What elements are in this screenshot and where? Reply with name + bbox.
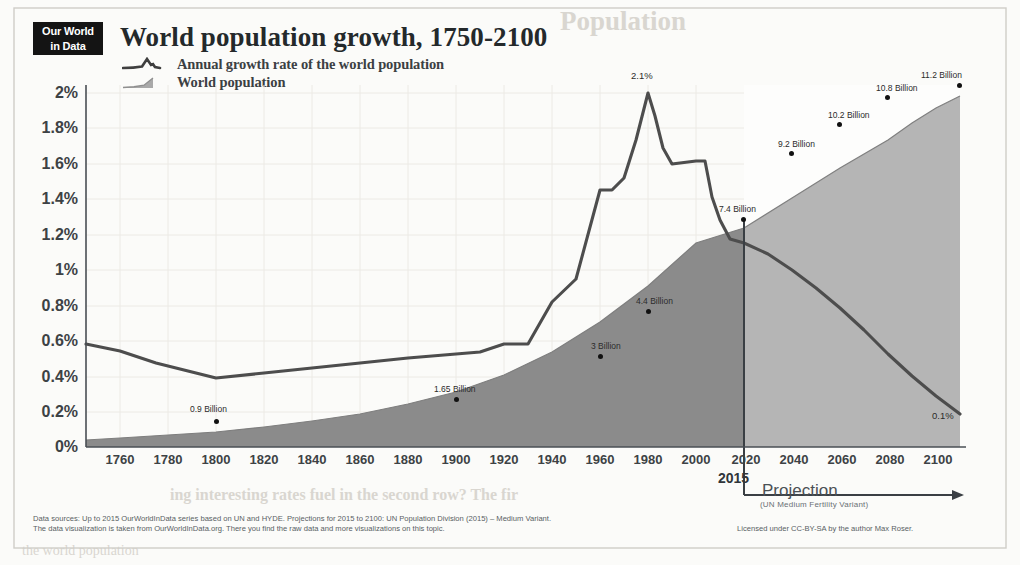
x-tick-1860: 1860 bbox=[337, 452, 383, 467]
x-tick-2060: 2060 bbox=[819, 452, 865, 467]
y-tick-0-4: 0.4% bbox=[18, 368, 78, 386]
x-tick-1900: 1900 bbox=[433, 452, 479, 467]
x-tick-2080: 2080 bbox=[867, 452, 913, 467]
chart-card: Our World in Data World population growt… bbox=[0, 0, 1020, 565]
y-tick-1: 1% bbox=[18, 261, 78, 279]
marker-pop-1980 bbox=[646, 309, 651, 314]
x-tick-2040: 2040 bbox=[771, 452, 817, 467]
marker-pop-1900 bbox=[454, 397, 459, 402]
x-tick-2020: 2020 bbox=[723, 452, 769, 467]
x-tick-1800: 1800 bbox=[193, 452, 239, 467]
marker-pop-1960 bbox=[598, 354, 603, 359]
projection-subtitle: (UN Medium Fertility Variant) bbox=[760, 500, 868, 509]
annotation-pop-2060: 10.2 Billion bbox=[828, 110, 870, 120]
x-tick-1760: 1760 bbox=[97, 452, 143, 467]
projection-title: Projection bbox=[762, 481, 838, 501]
y-tick-1-4: 1.4% bbox=[18, 190, 78, 208]
y-tick-0-8: 0.8% bbox=[18, 297, 78, 315]
y-tick-0-6: 0.6% bbox=[18, 332, 78, 350]
divider-2015-label: 2015 bbox=[718, 470, 749, 486]
marker-pop-2080 bbox=[885, 95, 890, 100]
annotation-pop-1800: 0.9 Billion bbox=[190, 404, 227, 414]
y-tick-1-2: 1.2% bbox=[18, 226, 78, 244]
y-tick-0: 0% bbox=[18, 438, 78, 456]
chart-footer: Data sources: Up to 2015 OurWorldInData … bbox=[33, 514, 551, 534]
projection-arrowhead bbox=[952, 490, 964, 500]
y-tick-2: 2% bbox=[18, 84, 78, 102]
y-tick-1-8: 1.8% bbox=[18, 119, 78, 137]
x-tick-2000: 2000 bbox=[673, 452, 719, 467]
marker-pop-1800 bbox=[214, 419, 219, 424]
x-tick-1880: 1880 bbox=[385, 452, 431, 467]
x-tick-1980: 1980 bbox=[625, 452, 671, 467]
footer-data-sources: Data sources: Up to 2015 OurWorldInData … bbox=[33, 514, 551, 524]
x-tick-1780: 1780 bbox=[145, 452, 191, 467]
annotation-pop-1900: 1.65 Billion bbox=[434, 384, 476, 394]
annotation-rate-peak: 2.1% bbox=[631, 70, 653, 81]
population-area-historic bbox=[86, 228, 744, 447]
footer-visualization: The data visualization is taken from Our… bbox=[33, 524, 551, 534]
x-tick-1820: 1820 bbox=[241, 452, 287, 467]
annotation-pop-1960: 3 Billion bbox=[591, 341, 621, 351]
plot-area: 2% 1.8% 1.6% 1.4% 1.2% 1% 0.8% 0.6% 0.4%… bbox=[0, 0, 1020, 565]
x-tick-1940: 1940 bbox=[529, 452, 575, 467]
footer-license: Licensed under CC-BY-SA by the author Ma… bbox=[737, 524, 913, 533]
x-tick-1840: 1840 bbox=[289, 452, 335, 467]
x-tick-1960: 1960 bbox=[577, 452, 623, 467]
x-tick-1920: 1920 bbox=[481, 452, 527, 467]
chart-svg bbox=[0, 0, 1020, 565]
y-tick-1-6: 1.6% bbox=[18, 155, 78, 173]
marker-pop-2015 bbox=[741, 217, 746, 222]
y-tick-0-2: 0.2% bbox=[18, 403, 78, 421]
annotation-pop-2080: 10.8 Billion bbox=[876, 83, 918, 93]
marker-pop-2040 bbox=[789, 151, 794, 156]
marker-pop-2100 bbox=[957, 83, 962, 88]
annotation-pop-1980: 4.4 Billion bbox=[636, 296, 673, 306]
x-tick-2100: 2100 bbox=[915, 452, 961, 467]
annotation-pop-2040: 9.2 Billion bbox=[778, 139, 815, 149]
annotation-pop-2100: 11.2 Billion bbox=[921, 70, 962, 80]
annotation-rate-end: 0.1% bbox=[932, 410, 954, 421]
annotation-pop-2015: 7.4 Billion bbox=[719, 204, 756, 214]
marker-pop-2060 bbox=[837, 122, 842, 127]
